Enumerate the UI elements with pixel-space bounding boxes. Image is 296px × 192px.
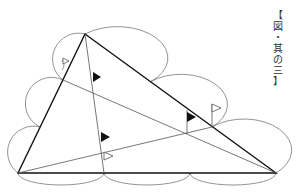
arc-right-3 xyxy=(212,119,292,173)
caption-char: の xyxy=(271,54,285,65)
flag-group xyxy=(63,58,221,160)
caption-char: 】 xyxy=(271,76,285,87)
flag-outline-2 xyxy=(104,152,113,160)
triangle-diagram xyxy=(0,0,296,192)
flag-outline-1 xyxy=(212,104,221,112)
caption-char: ・ xyxy=(271,32,285,43)
arc-bottom-3 xyxy=(190,173,276,185)
flag-filled-1 xyxy=(93,72,101,82)
diagram-canvas: 【 図 ・ 其 の 三 】 xyxy=(0,0,296,192)
line-top-to-bottom xyxy=(85,34,104,173)
triangle xyxy=(18,34,276,173)
flag-filled-3 xyxy=(101,132,110,142)
triangle-outline xyxy=(18,34,276,173)
arc-bottom-1 xyxy=(18,173,104,185)
flag-outline-3 xyxy=(63,58,69,64)
interior-lines xyxy=(18,34,276,173)
line-left-vertex-to-right xyxy=(18,127,212,173)
arc-bottom-2 xyxy=(104,173,190,185)
caption-char: 三 xyxy=(271,65,285,76)
caption-char: 【 xyxy=(271,10,285,21)
caption-char: 図 xyxy=(271,21,285,32)
caption-char: 其 xyxy=(271,43,285,54)
line-left-to-right-vertex xyxy=(63,80,276,173)
arc-left-3 xyxy=(8,126,40,173)
arc-right-1 xyxy=(85,27,168,82)
figure-caption: 【 図 ・ 其 の 三 】 xyxy=(271,10,285,87)
arc-left-1 xyxy=(53,33,85,80)
